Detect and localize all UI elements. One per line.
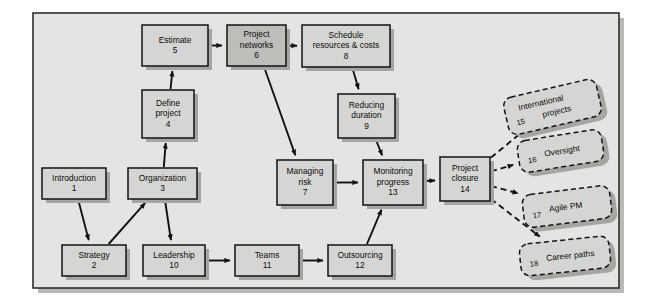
flowchart-svg: Introduction1Strategy2Organization3Defin… (0, 0, 646, 303)
node-3[interactable]: Organization3 (128, 168, 201, 203)
node-13[interactable]: Monitoringprogress13 (363, 160, 427, 209)
node-label: Project (243, 29, 270, 39)
node-label: Teams (255, 250, 280, 260)
node-10[interactable]: Leadership10 (143, 245, 209, 280)
optional-node-number: 18 (529, 259, 538, 269)
node-5[interactable]: Estimate5 (142, 25, 212, 70)
node-number: 3 (160, 183, 165, 193)
node-label: resources & costs (313, 40, 380, 50)
node-number: 14 (460, 184, 470, 194)
node-number: 10 (169, 260, 179, 270)
node-label: Introduction (52, 173, 96, 183)
node-number: 2 (92, 260, 97, 270)
node-label: Organization (139, 173, 187, 183)
node-label: duration (351, 110, 382, 120)
node-label: Leadership (153, 250, 195, 260)
node-label: project (155, 108, 181, 118)
node-number: 11 (263, 260, 272, 270)
optional-node-number: 16 (527, 155, 537, 165)
node-6[interactable]: Projectnetworks6 (227, 25, 290, 70)
node-label: Define (156, 98, 181, 108)
node-number: 1 (72, 183, 77, 193)
node-number: 6 (254, 50, 259, 60)
node-label: networks (240, 40, 274, 50)
node-4[interactable]: Defineproject4 (142, 90, 198, 142)
diagram-canvas: Introduction1Strategy2Organization3Defin… (0, 0, 646, 303)
node-label: Managing (287, 166, 324, 176)
node-label: risk (298, 177, 312, 187)
node-number: 8 (344, 51, 349, 61)
node-number: 5 (173, 45, 178, 55)
node-2[interactable]: Strategy2 (62, 245, 130, 280)
node-label: Schedule (329, 30, 364, 40)
node-label: closure (452, 173, 479, 183)
node-number: 12 (355, 260, 365, 270)
node-9[interactable]: Reducingduration9 (338, 94, 399, 142)
node-number: 7 (303, 187, 308, 197)
node-number: 4 (166, 119, 171, 129)
node-14[interactable]: Projectclosure14 (440, 157, 494, 205)
node-label: Reducing (349, 100, 385, 110)
node-label: Strategy (78, 250, 110, 260)
node-label: Estimate (159, 35, 192, 45)
optional-node-number: 17 (532, 210, 541, 220)
node-1[interactable]: Introduction1 (42, 168, 110, 203)
node-number: 9 (364, 121, 369, 131)
node-11[interactable]: Teams11 (235, 245, 303, 280)
node-label: Outsourcing (337, 250, 382, 260)
node-number: 13 (388, 187, 398, 197)
node-7[interactable]: Managingrisk7 (277, 160, 337, 209)
node-label: Project (452, 163, 479, 173)
node-label: progress (377, 177, 410, 187)
node-label: Monitoring (373, 166, 412, 176)
node-8[interactable]: Scheduleresources & costs8 (302, 25, 394, 71)
node-12[interactable]: Outsourcing12 (328, 245, 396, 280)
